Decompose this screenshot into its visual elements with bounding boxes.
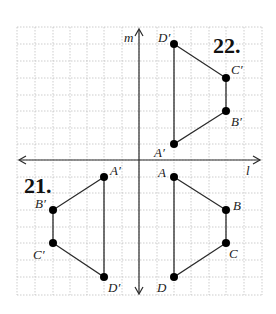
label-b-prime-left: B′ (35, 196, 46, 211)
problem-number-21: 21. (24, 173, 52, 198)
label-d-prime-left: D′ (107, 280, 120, 295)
point-c-prime (222, 74, 230, 82)
problem-number-22: 22. (213, 33, 241, 58)
point-d-prime (170, 40, 178, 48)
point-d-prime-left (100, 273, 108, 281)
label-c-prime: C′ (231, 62, 243, 77)
label-a-prime-left: A′ (109, 163, 121, 178)
point-a (170, 173, 178, 181)
label-d: D (156, 280, 167, 295)
label-c: C (229, 246, 238, 261)
point-b-prime (222, 107, 230, 115)
label-d-prime: D′ (157, 30, 170, 45)
axis-label-m: m (124, 30, 133, 45)
reflection-diagram: m l 22. D′ C′ B′ A′ 21. A B C D A′ B′ C′… (0, 0, 276, 314)
point-b-prime-left (49, 206, 57, 214)
point-b (222, 206, 230, 214)
label-b: B (233, 198, 241, 213)
point-d (170, 273, 178, 281)
label-c-prime-left: C′ (33, 247, 45, 262)
label-a-prime: A′ (153, 145, 165, 160)
axis-label-l: l (246, 163, 250, 178)
label-b-prime: B′ (231, 114, 242, 129)
axis-m (135, 29, 143, 294)
point-c-prime-left (49, 239, 57, 247)
point-a-prime (170, 140, 178, 148)
label-a: A (157, 165, 166, 180)
point-a-prime-left (100, 173, 108, 181)
